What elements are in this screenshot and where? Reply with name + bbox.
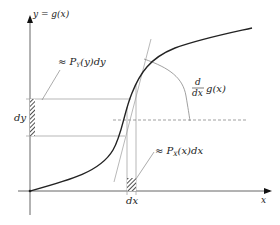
- x-axis-label: x: [261, 195, 266, 205]
- py-leader-line: [42, 70, 60, 100]
- svg-text:g(x): g(x): [206, 83, 226, 94]
- svg-text:dx: dx: [192, 88, 203, 98]
- svg-text:d: d: [195, 77, 201, 87]
- tangent-line: [114, 39, 151, 182]
- dy-hatch-region: [30, 99, 35, 136]
- px-label: ≈ PX(x)dx: [155, 145, 203, 157]
- derivative-label: d dx g(x): [192, 77, 226, 98]
- py-label: ≈ PY(y)dy: [58, 56, 106, 68]
- dx-hatch-region: [127, 178, 136, 191]
- y-axis-label: y = g(x): [32, 9, 70, 19]
- g-curve: [30, 28, 252, 191]
- px-leader-line: [136, 152, 154, 179]
- change-of-variables-figure: y = g(x) x dy dx ≈ PY(y)dy ≈ PX(x)dx d d…: [0, 0, 280, 225]
- dx-label: dx: [126, 195, 138, 206]
- origin-dot: [29, 190, 32, 193]
- derivative-curve: [144, 59, 190, 121]
- dy-label: dy: [14, 112, 26, 123]
